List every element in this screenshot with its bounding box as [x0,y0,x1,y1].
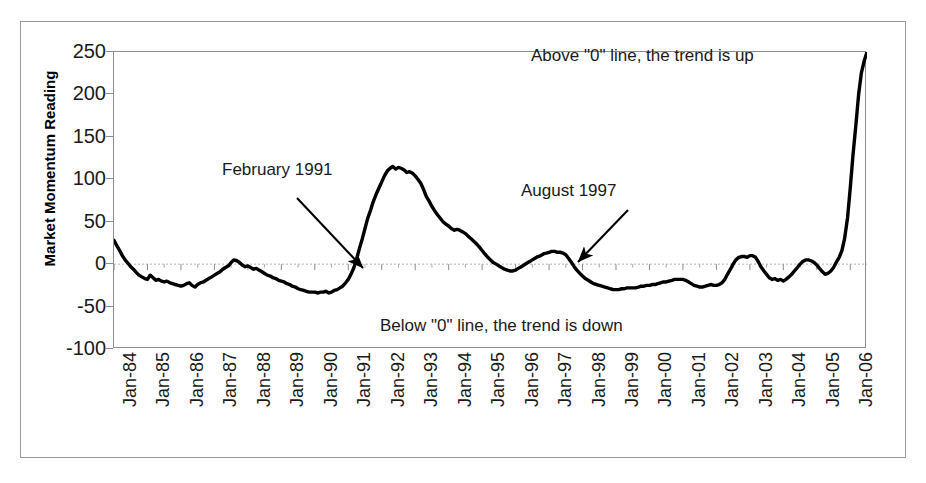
arrow-august-1997 [578,210,628,262]
y-tick-mark [106,221,113,222]
y-tick-mark [106,306,113,307]
arrow-february-1991 [297,198,363,268]
chart-figure: Market Momentum Reading 250200150100500-… [0,0,926,483]
y-tick-mark [106,136,113,137]
y-tick-mark [106,51,113,52]
y-tick-mark [106,348,113,349]
y-tick-mark [106,178,113,179]
annotation-arrow-layer [0,0,926,483]
y-tick-mark [106,93,113,94]
y-tick-mark [106,263,113,264]
